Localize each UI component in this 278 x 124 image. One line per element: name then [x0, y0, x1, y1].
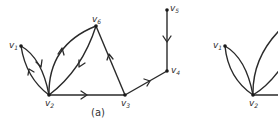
- label-v2: v2: [45, 98, 54, 109]
- vertex-b-v2: [251, 93, 255, 97]
- caption-a: (a): [91, 107, 105, 118]
- label-v6: v6: [92, 14, 101, 25]
- vertex-v3: [123, 93, 127, 97]
- vertex-v4: [165, 69, 169, 73]
- label-v3: v3: [121, 98, 130, 109]
- panel-a: v1 v2 v3 v4 v5 v6 (a): [9, 3, 180, 118]
- label-b-v1: v1: [213, 40, 222, 51]
- edge-v2-v1-lower: [21, 46, 49, 95]
- vertex-v2: [47, 93, 51, 97]
- edge-v3-v6: [96, 26, 125, 95]
- vertex-b-v1: [223, 44, 227, 48]
- edge-b-v2-v6-outer: [253, 25, 278, 95]
- edge-b-v1-v2-lower: [225, 46, 253, 95]
- edge-v3-v4: [125, 71, 167, 95]
- label-v4: v4: [171, 65, 180, 76]
- edge-v1-v2-upper: [21, 46, 49, 95]
- panel-b: v1 v2: [213, 25, 278, 109]
- label-b-v2: v2: [249, 98, 258, 109]
- graph-figure: v1 v2 v3 v4 v5 v6 (a) v1 v2: [0, 0, 278, 124]
- vertex-v5: [165, 8, 169, 12]
- vertex-v1: [19, 44, 23, 48]
- edge-v2-v6-outer: [49, 26, 96, 95]
- label-v1: v1: [9, 40, 18, 51]
- edge-b-v1-v2-upper: [225, 46, 253, 95]
- label-v5: v5: [170, 3, 179, 14]
